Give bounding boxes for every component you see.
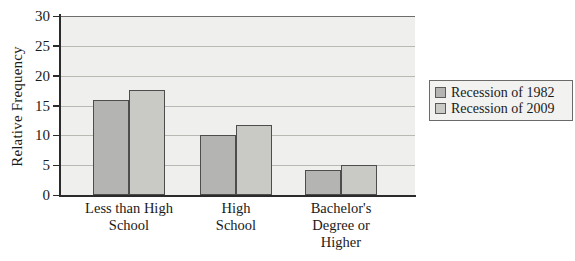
legend-item-label: Recession of 2009 <box>451 101 554 116</box>
y-tick-label-0: 0 <box>18 188 50 203</box>
chart-legend: Recession of 1982Recession of 2009 <box>429 80 573 121</box>
y-tick-mark-25 <box>53 45 60 47</box>
y-tick-mark-10 <box>53 135 60 137</box>
gridline-30 <box>60 16 415 17</box>
y-tick-mark-30 <box>53 16 60 18</box>
bar <box>200 135 236 195</box>
y-tick-mark-15 <box>53 105 60 107</box>
legend-item-label: Recession of 1982 <box>451 85 554 100</box>
gridline-20 <box>60 76 415 77</box>
x-axis-line <box>59 195 416 197</box>
y-tick-mark-5 <box>53 165 60 167</box>
legend-swatch-icon <box>435 103 446 114</box>
y-tick-mark-20 <box>53 75 60 77</box>
legend-item: Recession of 2009 <box>435 100 568 116</box>
legend-swatch-icon <box>435 87 446 98</box>
bar <box>93 100 129 195</box>
bar <box>341 165 377 195</box>
x-axis-label-2: Bachelor's Degree or Higher <box>271 200 411 251</box>
bar <box>236 125 272 195</box>
plot-area <box>60 16 415 195</box>
legend-item: Recession of 1982 <box>435 84 568 100</box>
y-tick-mark-0 <box>53 195 60 197</box>
y-tick-label-20: 20 <box>18 69 50 84</box>
y-tick-label-30: 30 <box>18 9 50 24</box>
bar <box>129 90 165 195</box>
y-tick-label-5: 5 <box>18 158 50 173</box>
y-tick-label-25: 25 <box>18 39 50 54</box>
y-tick-label-15: 15 <box>18 99 50 114</box>
gridline-25 <box>60 46 415 47</box>
bar <box>305 170 341 195</box>
y-tick-label-10: 10 <box>18 128 50 143</box>
